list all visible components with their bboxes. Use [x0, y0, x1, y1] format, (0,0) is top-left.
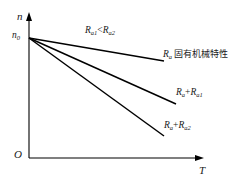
curve-label-resistance-2: Ra+Ra2 — [164, 121, 191, 131]
curve-natural-characteristic — [29, 38, 164, 61]
y-axis-label: n — [17, 11, 23, 22]
x-axis-label: T — [199, 165, 205, 176]
n0-subscript: 0 — [17, 34, 20, 41]
curve2-subscript: a — [170, 124, 173, 131]
curve2-extra-subscript: a2 — [184, 124, 191, 131]
curve0-chinese-text: 固有机械特性 — [174, 49, 228, 59]
compare-left-variable: R — [85, 25, 91, 35]
curve0-variable: R — [163, 49, 169, 59]
curve-label-natural-characteristic: Ra 固有机械特性 — [163, 50, 228, 60]
curve-label-resistance-1: Ra+Ra1 — [176, 88, 203, 98]
curve1-subscript: a — [182, 91, 185, 98]
y-axis-n0-label: n0 — [12, 31, 20, 41]
speed-torque-characteristic-figure: n n0 T O Ra1<Ra2 Ra 固有机械特性 Ra+Ra1 Ra+Ra2 — [0, 0, 248, 182]
x-axis-arrow-icon — [195, 155, 204, 161]
compare-right-subscript: a2 — [108, 29, 115, 36]
curve-with-resistance-1 — [29, 38, 176, 104]
plot-canvas — [0, 0, 248, 182]
y-axis-arrow-icon — [26, 12, 32, 21]
curve1-variable: R — [176, 87, 182, 97]
curve-with-resistance-2 — [29, 38, 164, 136]
curve1-extra-subscript: a1 — [196, 91, 203, 98]
curve0-subscript: a — [169, 53, 172, 60]
origin-label: O — [14, 149, 22, 160]
resistance-comparison-annotation: Ra1<Ra2 — [85, 26, 115, 36]
compare-left-subscript: a1 — [91, 29, 98, 36]
curve2-variable: R — [164, 120, 170, 130]
